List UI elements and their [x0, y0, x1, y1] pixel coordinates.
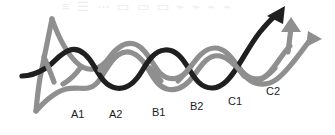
braid-illustration [0, 0, 335, 135]
segment-label-a2: A2 [109, 108, 122, 120]
segment-label-c2: C2 [266, 85, 280, 97]
gray-arrow-head-right-icon [306, 31, 322, 47]
gray-arrow-head-up-icon [281, 17, 301, 32]
segment-label-b1: B1 [152, 106, 165, 118]
gray-crossing-over-6 [63, 67, 81, 84]
segment-label-b2: B2 [190, 100, 203, 112]
segment-label-c1: C1 [228, 95, 242, 107]
segment-label-a1: A1 [71, 108, 84, 120]
figure-canvas: ≡ ☰ ⋯ ▭ ▭ ▭ ⌁ ⌁ ⌁ ⌁ A1 A2 B1 B2 C [0, 0, 335, 135]
